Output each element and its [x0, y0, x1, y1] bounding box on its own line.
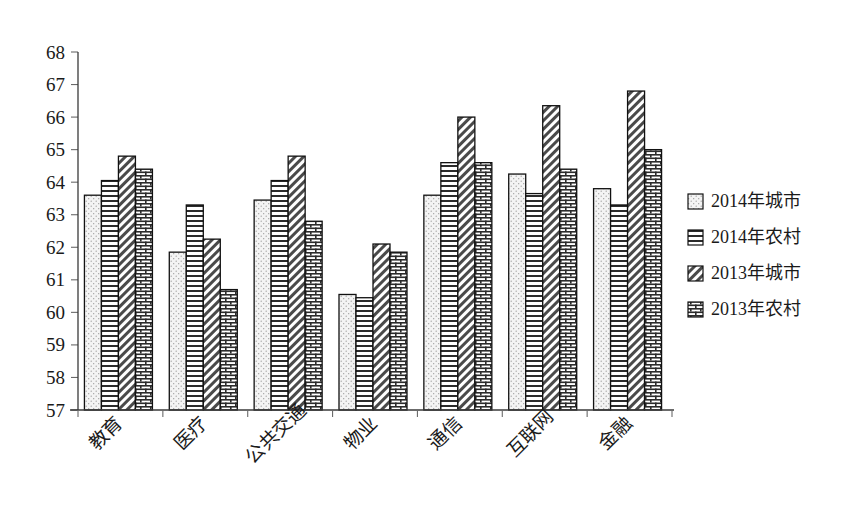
- bar-2014年农村-物业: [356, 298, 373, 410]
- y-tick-label: 62: [46, 237, 65, 258]
- y-tick-label: 65: [46, 139, 65, 160]
- bar-2013年农村-金融: [645, 150, 662, 410]
- bar-2013年城市-医疗: [203, 239, 220, 410]
- y-tick-label: 58: [46, 367, 65, 388]
- bar-2013年城市-金融: [628, 91, 645, 410]
- bar-2013年城市-物业: [373, 244, 390, 410]
- legend-label-2013年农村: 2013年农村: [711, 299, 801, 319]
- bar-2013年农村-互联网: [560, 169, 577, 410]
- bar-2014年城市-互联网: [509, 174, 526, 410]
- bar-2014年城市-公共交通: [254, 200, 271, 410]
- bar-2014年城市-教育: [84, 195, 101, 410]
- bar-2014年农村-互联网: [526, 194, 543, 410]
- legend-swatch-2013年城市: [688, 266, 703, 281]
- legend-label-2014年农村: 2014年农村: [711, 227, 801, 247]
- bar-2013年城市-通信: [458, 117, 475, 410]
- bar-2014年城市-医疗: [169, 252, 186, 410]
- bar-2013年农村-公共交通: [305, 221, 322, 410]
- legend-swatch-2013年农村: [688, 302, 703, 317]
- y-tick-label: 61: [46, 269, 65, 290]
- bar-2013年城市-教育: [118, 156, 135, 410]
- bar-2013年农村-医疗: [220, 290, 237, 410]
- y-tick-label: 67: [46, 74, 65, 95]
- bar-2014年农村-医疗: [186, 205, 203, 410]
- legend-swatch-2014年农村: [688, 230, 703, 245]
- bar-2014年城市-金融: [594, 189, 611, 410]
- bar-2013年城市-公共交通: [288, 156, 305, 410]
- y-tick-label: 59: [46, 334, 65, 355]
- y-tick-label: 64: [46, 172, 66, 193]
- y-tick-label: 60: [46, 302, 65, 323]
- legend-label-2013年城市: 2013年城市: [711, 263, 801, 283]
- bar-2013年城市-互联网: [543, 106, 560, 410]
- bar-2014年农村-教育: [101, 181, 118, 410]
- bar-2014年农村-通信: [441, 163, 458, 410]
- bar-2014年城市-通信: [424, 195, 441, 410]
- legend-swatch-2014年城市: [688, 194, 703, 209]
- bar-chart: 575859606162636465666768 教育医疗公共交通物业通信互联网…: [0, 0, 854, 526]
- y-tick-label: 63: [46, 204, 65, 225]
- bar-2013年农村-物业: [390, 252, 407, 410]
- chart-canvas: 575859606162636465666768 教育医疗公共交通物业通信互联网…: [0, 0, 854, 526]
- bar-2013年农村-通信: [475, 163, 492, 410]
- legend-label-2014年城市: 2014年城市: [711, 191, 801, 211]
- y-tick-label: 57: [46, 400, 65, 421]
- bar-2014年农村-金融: [611, 205, 628, 410]
- bar-2014年城市-物业: [339, 294, 356, 410]
- bar-2014年农村-公共交通: [271, 181, 288, 410]
- bar-2013年农村-教育: [135, 169, 152, 410]
- y-tick-label: 68: [46, 42, 65, 63]
- y-tick-label: 66: [46, 107, 65, 128]
